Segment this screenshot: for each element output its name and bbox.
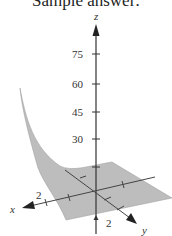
y-tick-label-2: 2	[106, 217, 112, 229]
y-axis-label: y	[141, 224, 147, 236]
y-axis-arrow-icon	[126, 213, 137, 224]
z-tick-label-30: 30	[72, 133, 84, 145]
x-axis-label: x	[9, 203, 15, 215]
x-tick-label-2: 2	[36, 189, 42, 201]
surface-plot: z 75 60 45 30 x 2 2 y	[0, 0, 172, 236]
z-axis-arrow-icon	[93, 24, 100, 36]
x-axis-arrow-icon	[22, 201, 35, 209]
z-tick-label-75: 75	[72, 48, 84, 60]
z-axis-lower-arrow-icon	[94, 215, 99, 220]
z-tick-label-45: 45	[72, 106, 84, 118]
z-axis-label: z	[93, 10, 99, 22]
z-tick-label-60: 60	[72, 78, 84, 90]
